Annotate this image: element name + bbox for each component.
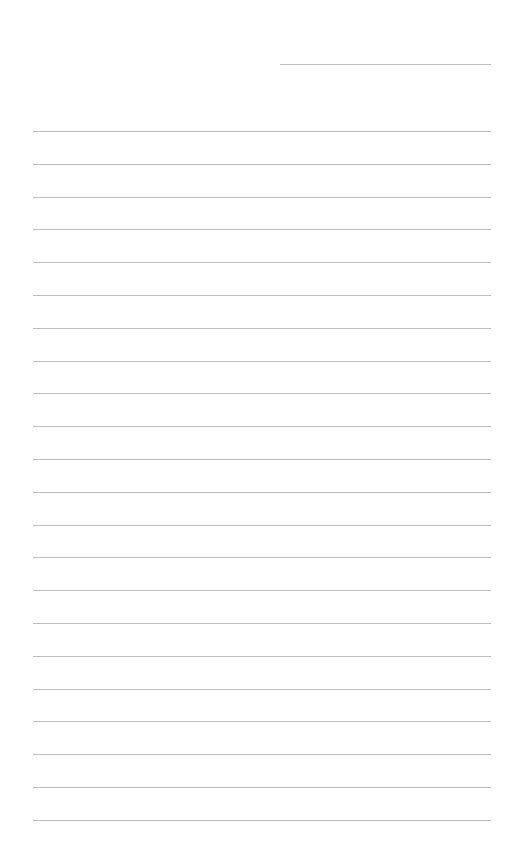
ruled-line: [33, 754, 491, 755]
ruled-line: [33, 590, 491, 591]
ruled-line: [33, 656, 491, 657]
ruled-line: [33, 689, 491, 690]
ruled-line: [33, 557, 491, 558]
ruled-line: [33, 492, 491, 493]
ruled-line: [33, 131, 491, 132]
ruled-line: [33, 820, 491, 821]
ruled-line: [33, 426, 491, 427]
ruled-line: [33, 459, 491, 460]
ruled-line: [33, 328, 491, 329]
ruled-line: [33, 787, 491, 788]
ruled-line: [33, 623, 491, 624]
ruled-line: [33, 229, 491, 230]
ruled-line: [33, 262, 491, 263]
ruled-line: [33, 393, 491, 394]
ruled-line: [33, 295, 491, 296]
ruled-line: [33, 525, 491, 526]
ruled-line: [33, 361, 491, 362]
date-line: [280, 64, 491, 65]
ruled-line: [33, 197, 491, 198]
ruled-line: [33, 164, 491, 165]
ruled-line: [33, 721, 491, 722]
